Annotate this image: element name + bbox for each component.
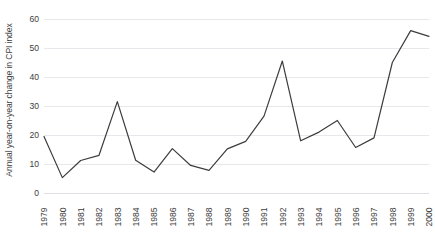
plot-area bbox=[44, 19, 429, 193]
y-tick-label-40: 40 bbox=[18, 73, 39, 82]
x-axis-tick-labels: 1979198019811982198319841985198619871988… bbox=[44, 196, 429, 234]
x-tick-label-text: 2000 bbox=[424, 207, 434, 226]
y-tick-label-60: 60 bbox=[18, 15, 39, 24]
y-axis-title-text: Annual year-on-year change in CPI index bbox=[4, 23, 14, 176]
series-line-group bbox=[44, 19, 429, 193]
x-tick-label-2000: 2000 bbox=[412, 196, 435, 230]
y-tick-label-10: 10 bbox=[18, 160, 39, 169]
y-axis-title: Annual year-on-year change in CPI index bbox=[0, 0, 18, 200]
line-chart: Annual year-on-year change in CPI index … bbox=[0, 0, 435, 234]
y-tick-label-20: 20 bbox=[18, 131, 39, 140]
series-line-cpi bbox=[44, 31, 429, 178]
y-tick-label-30: 30 bbox=[18, 102, 39, 111]
y-tick-label-50: 50 bbox=[18, 44, 39, 53]
gridline-0 bbox=[44, 193, 429, 194]
